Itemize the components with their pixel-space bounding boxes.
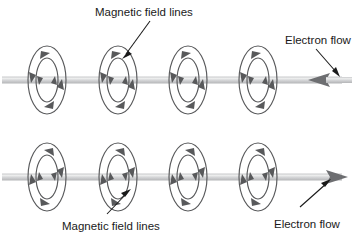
bottom-magnetic-field-lines-label: Magnetic field lines [62, 220, 160, 232]
top-wire-group [2, 46, 352, 114]
bottom-wire-group [2, 143, 348, 211]
top-electron-flow-leader [316, 49, 340, 77]
diagram-canvas: Magnetic field lines Electron flow Magne… [0, 0, 361, 242]
leader-lines [107, 21, 340, 214]
top-magnetic-field-lines-label: Magnetic field lines [95, 6, 193, 18]
top-electron-flow-label: Electron flow [285, 34, 352, 46]
magnetic-field-diagram: Magnetic field lines Electron flow Magne… [0, 0, 361, 242]
bottom-electron-flow-label: Electron flow [274, 218, 341, 230]
top-field-lines-leader [122, 21, 150, 59]
top-wire-flow-arrow [308, 73, 352, 87]
bottom-electron-flow-leader [300, 179, 331, 207]
